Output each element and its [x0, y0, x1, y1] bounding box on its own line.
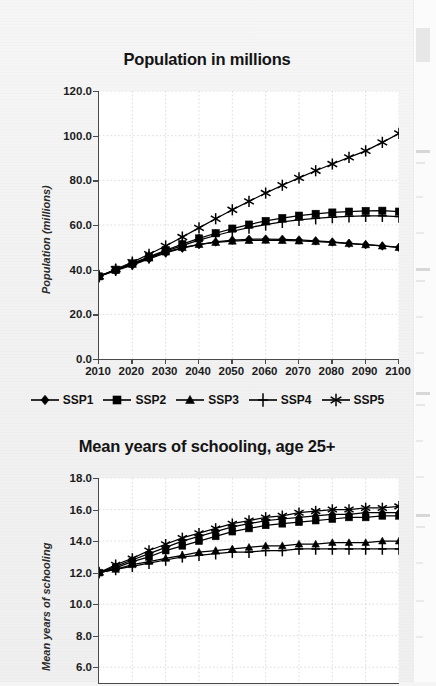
- y-tick-label: 0.0: [76, 353, 92, 365]
- x-tick-label: 2090: [352, 365, 378, 377]
- y-tick-label: 20.0: [70, 308, 92, 320]
- asterisk-marker-icon: [321, 392, 351, 408]
- legend-item-ssp3[interactable]: SSP3: [175, 392, 239, 408]
- y-tick-label: 40.0: [70, 264, 92, 276]
- population-y-tick-labels: 0.020.040.060.080.0100.0120.0: [0, 91, 92, 359]
- x-tick-label: 2060: [252, 365, 278, 377]
- y-tick-label: 16.0: [70, 504, 92, 516]
- x-tick-mark: [398, 359, 399, 364]
- x-tick-mark: [265, 359, 266, 364]
- y-tick-label: 120.0: [63, 85, 92, 97]
- legend-item-ssp4[interactable]: SSP4: [248, 392, 312, 408]
- x-tick-label: 2030: [152, 365, 178, 377]
- population-chart-title: Population in millions: [0, 50, 414, 69]
- y-tick-label: 8.0: [76, 630, 92, 642]
- population-x-tick-labels: 2010202020302040205020602070208020902100: [98, 365, 398, 385]
- population-plot-wrap: Population (millions) 0.020.040.060.080.…: [0, 69, 414, 369]
- y-tick-label: 60.0: [70, 219, 92, 231]
- y-tick-label: 14.0: [70, 535, 92, 547]
- population-chart-block: Population in millions Population (milli…: [0, 50, 414, 369]
- legend-label: SSP1: [63, 393, 94, 407]
- x-tick-label: 2040: [185, 365, 211, 377]
- x-tick-mark: [165, 359, 166, 364]
- x-tick-label: 2010: [85, 365, 111, 377]
- series-markers-SSP5: [99, 501, 399, 578]
- x-tick-label: 2020: [119, 365, 145, 377]
- x-tick-label: 2100: [385, 365, 411, 377]
- y-tick-label: 6.0: [76, 661, 92, 673]
- diamond-marker-icon: [30, 392, 60, 408]
- y-tick-label: 10.0: [70, 598, 92, 610]
- schooling-y-tick-labels: 6.08.010.012.014.016.018.0: [0, 478, 92, 683]
- legend-label: SSP3: [208, 393, 239, 407]
- schooling-chart-title: Mean years of schooling, age 25+: [0, 437, 414, 456]
- population-plot-area: [98, 91, 399, 360]
- population-chart-canvas: [99, 91, 399, 359]
- series-markers-SSP3: [99, 236, 399, 279]
- schooling-chart-canvas: [99, 478, 399, 683]
- x-tick-mark: [365, 359, 366, 364]
- x-tick-mark: [98, 359, 99, 364]
- schooling-plot-area: [98, 478, 399, 684]
- square-marker-icon: [102, 392, 132, 408]
- x-tick-label: 2070: [285, 365, 311, 377]
- legend-item-ssp2[interactable]: SSP2: [102, 392, 166, 408]
- y-tick-label: 18.0: [70, 472, 92, 484]
- triangle-marker-icon: [175, 392, 205, 408]
- legend-item-ssp5[interactable]: SSP5: [321, 392, 385, 408]
- x-tick-mark: [198, 359, 199, 364]
- series-line-SSP1: [99, 239, 399, 276]
- x-tick-mark: [331, 359, 332, 364]
- x-tick-label: 2080: [319, 365, 345, 377]
- plus-marker-icon: [248, 392, 278, 408]
- y-tick-label: 100.0: [63, 130, 92, 142]
- y-tick-label: 80.0: [70, 174, 92, 186]
- x-tick-mark: [298, 359, 299, 364]
- y-tick-label: 12.0: [70, 567, 92, 579]
- x-tick-mark: [131, 359, 132, 364]
- x-tick-label: 2050: [219, 365, 245, 377]
- legend-item-ssp1[interactable]: SSP1: [30, 392, 94, 408]
- adjacent-page-sliver: [413, 0, 436, 682]
- schooling-plot-wrap: Mean years of schooling 6.08.010.012.014…: [0, 456, 414, 686]
- chart-legend: SSP1SSP2SSP3SSP4SSP5: [0, 392, 414, 408]
- x-tick-mark: [231, 359, 232, 364]
- legend-label: SSP4: [281, 393, 312, 407]
- legend-label: SSP2: [135, 393, 166, 407]
- legend-label: SSP5: [354, 393, 385, 407]
- schooling-chart-block: Mean years of schooling, age 25+ Mean ye…: [0, 437, 414, 686]
- series-markers-SSP4: [99, 210, 399, 283]
